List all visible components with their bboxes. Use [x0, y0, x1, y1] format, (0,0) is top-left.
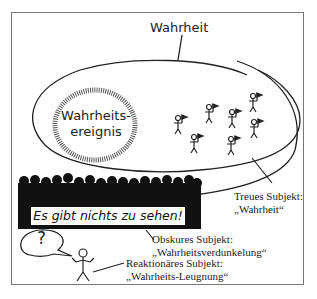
reactionary-subject-title: Reaktionäres Subjekt:: [126, 257, 228, 270]
truth-event-line1: Wahrheits-: [60, 108, 132, 124]
faithful-subject-label: Treues Subjekt: „Wahrheit“: [234, 190, 303, 216]
truth-event-line2: ereignis: [60, 124, 132, 140]
faithful-subject-title: Treues Subjekt:: [234, 190, 303, 203]
reactionary-subject-label: Reaktionäres Subjekt: „Wahrheits-Leugnun…: [126, 257, 228, 283]
truth-event-label: Wahrheits- ereignis: [60, 108, 132, 140]
truth-label: Wahrheit: [150, 20, 208, 35]
obscure-subject-label: Obskures Subjekt: „Wahrheitsverdunkelung…: [152, 233, 267, 259]
speech-bubble: [21, 230, 72, 256]
faithful-subject-quote: „Wahrheit“: [234, 203, 303, 216]
reactionary-figure: [72, 249, 94, 281]
crowd-banner: Es gibt nichts zu sehen!: [31, 207, 185, 225]
outer-arc: [195, 61, 297, 195]
faithful-subjects: [174, 93, 263, 155]
obscure-subject-title: Obskures Subjekt:: [152, 233, 267, 246]
reactionary-subject-quote: „Wahrheits-Leugnung“: [126, 270, 228, 283]
question-mark: ?: [37, 228, 46, 248]
